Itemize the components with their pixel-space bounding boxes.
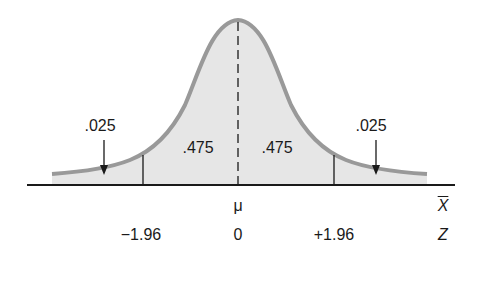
z-tick-negative-196: −1.96	[121, 227, 161, 243]
left-center-area-label: .475	[182, 140, 213, 156]
z-axis-label: Z	[438, 227, 448, 243]
z-tick-positive-196: +1.96	[314, 227, 354, 243]
left-tail-area-label: .025	[84, 118, 115, 134]
mean-mu-label: μ	[233, 198, 242, 214]
z-tick-zero: 0	[234, 227, 243, 243]
x-bar-axis-label: X	[438, 198, 449, 214]
right-center-area-label: .475	[261, 140, 292, 156]
curve-fill	[52, 20, 427, 185]
right-tail-area-label: .025	[355, 118, 386, 134]
